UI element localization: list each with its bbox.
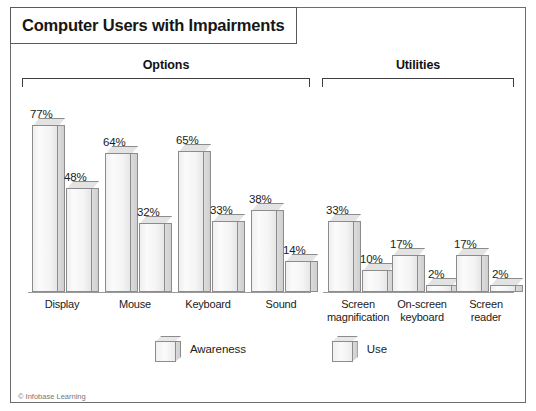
bar-front-face bbox=[105, 153, 131, 292]
bar-side-face bbox=[311, 261, 318, 292]
chart-figure: Computer Users with Impairments Options … bbox=[0, 0, 536, 411]
group-options-title: Options bbox=[22, 58, 310, 72]
credit-line: © Infobase Learning bbox=[18, 392, 86, 401]
bar-value-label: 64% bbox=[103, 136, 125, 148]
bar-side-face bbox=[516, 285, 523, 292]
bar-front-face bbox=[285, 261, 311, 292]
bar-value-label: 65% bbox=[176, 134, 198, 146]
bar-side-face bbox=[238, 221, 245, 292]
bar-front-face bbox=[212, 221, 238, 292]
legend-item-awareness: Awareness bbox=[155, 336, 246, 362]
bar-value-label: 17% bbox=[454, 238, 476, 250]
category-label-mouse: Mouse bbox=[97, 298, 173, 311]
bar-front-face bbox=[362, 270, 388, 292]
bar-front-face bbox=[490, 285, 516, 292]
bar-side-face bbox=[131, 153, 138, 292]
bar-value-label: 17% bbox=[390, 238, 412, 250]
bar-value-label: 2% bbox=[428, 268, 444, 280]
bar-front-face bbox=[32, 125, 58, 292]
bar-front-face bbox=[456, 255, 482, 292]
bar-side-face bbox=[58, 125, 65, 292]
category-label-display: Display bbox=[24, 298, 100, 311]
bar-value-label: 14% bbox=[283, 244, 305, 256]
group-utilities-bracket bbox=[322, 78, 514, 87]
bar-side-face bbox=[482, 255, 489, 292]
plot-area: Options Utilities 77% bbox=[10, 44, 526, 403]
group-options-bracket bbox=[22, 78, 310, 87]
page-title: Computer Users with Impairments bbox=[22, 16, 284, 35]
bar-value-label: 48% bbox=[64, 171, 86, 183]
legend-swatch-icon bbox=[332, 336, 358, 362]
category-label-keyboard: Keyboard bbox=[170, 298, 246, 311]
bar-side-face bbox=[418, 255, 425, 292]
axis-baseline-options bbox=[28, 292, 311, 293]
bar-value-label: 33% bbox=[326, 204, 348, 216]
bar-value-label: 77% bbox=[30, 108, 52, 120]
bar-value-label: 32% bbox=[137, 206, 159, 218]
bar-value-label: 38% bbox=[249, 193, 271, 205]
category-label-sound: Sound bbox=[243, 298, 319, 311]
bar-front-face bbox=[178, 151, 204, 292]
bar-front-face bbox=[392, 255, 418, 292]
legend-item-use: Use bbox=[332, 336, 387, 362]
bar-front-face bbox=[66, 188, 92, 292]
bar-value-label: 10% bbox=[360, 253, 382, 265]
bar-front-face bbox=[426, 285, 452, 292]
category-label-screen-reader: Screenreader bbox=[448, 298, 524, 323]
axis-baseline-utilities bbox=[323, 292, 514, 293]
legend-label-awareness: Awareness bbox=[190, 343, 246, 355]
chart-legend: Awareness Use bbox=[155, 336, 387, 362]
bar-front-face bbox=[139, 223, 165, 292]
bar-value-label: 33% bbox=[210, 204, 232, 216]
legend-swatch-icon bbox=[155, 336, 181, 362]
bar-value-label: 2% bbox=[492, 268, 508, 280]
legend-label-use: Use bbox=[367, 343, 387, 355]
group-utilities-title: Utilities bbox=[322, 58, 514, 72]
bar-front-face bbox=[251, 210, 277, 292]
bar-side-face bbox=[204, 151, 211, 292]
bar-side-face bbox=[92, 188, 99, 292]
bar-front-face bbox=[328, 221, 354, 292]
chart-title-box: Computer Users with Impairments bbox=[10, 7, 297, 44]
bar-side-face bbox=[165, 223, 172, 292]
